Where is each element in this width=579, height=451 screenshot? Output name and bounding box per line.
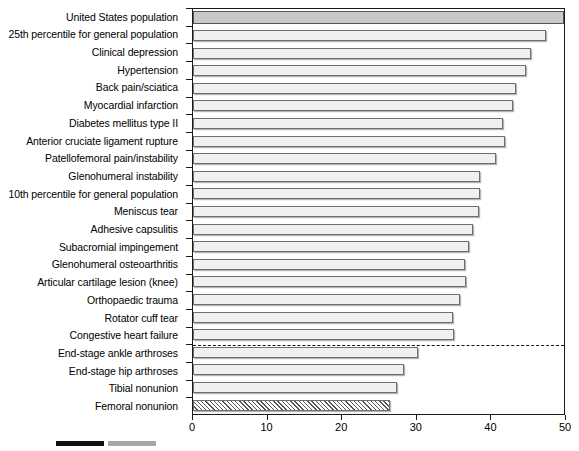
category-label: Back pain/sciatica (0, 79, 183, 97)
category-label: Subacromial impingement (0, 238, 183, 256)
category-label: 10th percentile for general population (0, 185, 183, 203)
bar (193, 364, 404, 375)
bar (193, 11, 564, 24)
bar-row (193, 150, 564, 168)
bar-row (193, 396, 564, 414)
bar-row (193, 167, 564, 185)
category-label: Glenohumeral osteoarthritis (0, 256, 183, 274)
category-label: Meniscus tear (0, 203, 183, 221)
x-axis-tick-label: 50 (559, 422, 571, 433)
bar (193, 259, 465, 270)
horizontal-bar-chart: United States population 25th percentile… (0, 0, 579, 451)
x-axis-tick (416, 415, 417, 420)
bar-row (193, 379, 564, 397)
bar-row (193, 27, 564, 45)
bar (193, 312, 453, 323)
bar-row (193, 291, 564, 309)
bar (193, 153, 496, 164)
bar-row (193, 273, 564, 291)
bar (193, 347, 418, 358)
category-label: Hypertension (0, 61, 183, 79)
bar (193, 100, 513, 111)
plot-area (192, 8, 565, 415)
legend-swatch-secondary (108, 441, 156, 446)
bar-row (193, 79, 564, 97)
bar (193, 83, 516, 94)
x-axis-tick-label: 40 (484, 422, 496, 433)
bar-row (193, 185, 564, 203)
category-label: 25th percentile for general population (0, 26, 183, 44)
bar-row (193, 203, 564, 221)
x-axis-tick (490, 415, 491, 420)
x-axis-tick (267, 415, 268, 420)
bar-row (193, 361, 564, 379)
category-label: Tibial nonunion (0, 380, 183, 398)
x-axis-tick-label: 20 (335, 422, 347, 433)
bar-row (193, 326, 564, 344)
bar (193, 382, 397, 393)
bar (193, 30, 546, 41)
category-label: Patellofemoral pain/instability (0, 150, 183, 168)
bar-row (193, 308, 564, 326)
bar (193, 65, 526, 76)
bar (193, 171, 480, 182)
bar (193, 241, 469, 252)
bar-row (193, 115, 564, 133)
bar-row (193, 256, 564, 274)
x-axis: 0 10 20 30 40 50 (192, 415, 565, 445)
bar (193, 136, 505, 147)
category-label: Anterior cruciate ligament rupture (0, 132, 183, 150)
bar (193, 294, 460, 305)
bar (193, 329, 454, 340)
x-axis-tick (565, 415, 566, 420)
chart-legend (56, 441, 156, 446)
bar-row (193, 44, 564, 62)
bar-row (193, 344, 564, 362)
bar (193, 118, 503, 129)
x-axis-tick-label: 0 (189, 422, 195, 433)
bar-row (193, 220, 564, 238)
x-axis-tick (341, 415, 342, 420)
bar (193, 400, 390, 411)
bar (193, 224, 473, 235)
category-label: Orthopaedic trauma (0, 291, 183, 309)
x-axis-tick-label: 10 (260, 422, 272, 433)
bar (193, 206, 479, 217)
x-axis-tick (192, 415, 193, 420)
category-label: Myocardial infarction (0, 97, 183, 115)
bar (193, 48, 531, 59)
category-label: United States population (0, 8, 183, 26)
bar (193, 276, 466, 287)
category-label: End-stage hip arthroses (0, 362, 183, 380)
bar-row (193, 132, 564, 150)
x-axis-tick-label: 30 (410, 422, 422, 433)
category-axis-labels: United States population 25th percentile… (0, 8, 183, 415)
category-label: End-stage ankle arthroses (0, 344, 183, 362)
reference-dashed-line (193, 345, 564, 346)
bar-row (193, 62, 564, 80)
category-label: Diabetes mellitus type II (0, 114, 183, 132)
bar-series (193, 9, 564, 414)
bar (193, 188, 480, 199)
bar-row (193, 238, 564, 256)
category-label: Congestive heart failure (0, 327, 183, 345)
bar-row (193, 9, 564, 27)
category-label: Femoral nonunion (0, 397, 183, 415)
category-label: Articular cartilage lesion (knee) (0, 274, 183, 292)
category-label: Adhesive capsulitis (0, 220, 183, 238)
category-label: Rotator cuff tear (0, 309, 183, 327)
category-label: Glenohumeral instability (0, 167, 183, 185)
legend-swatch-primary (56, 441, 104, 446)
category-label: Clinical depression (0, 43, 183, 61)
bar-row (193, 97, 564, 115)
